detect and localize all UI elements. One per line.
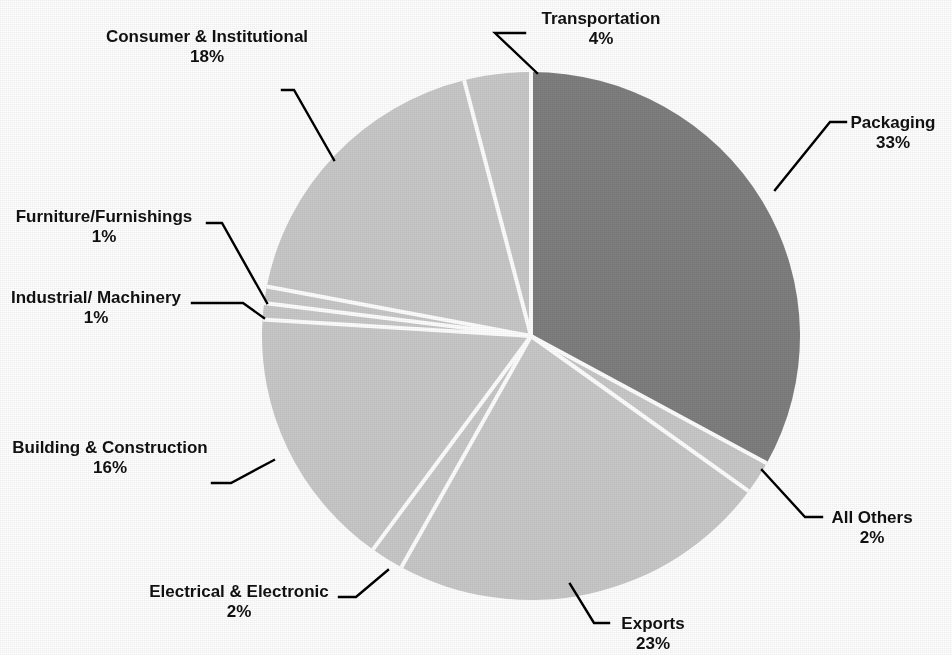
label-industrial-name: Industrial/ Machinery xyxy=(11,288,182,307)
label-exports-name: Exports xyxy=(621,614,684,633)
label-electrical-value: 2% xyxy=(227,602,252,621)
label-packaging-name: Packaging xyxy=(850,113,935,132)
label-industrial-value: 1% xyxy=(84,308,109,327)
label-consumer-value: 18% xyxy=(190,47,224,66)
pie-chart-canvas: Transportation 4% Consumer & Institution… xyxy=(0,0,952,655)
label-transportation-value: 4% xyxy=(589,29,614,48)
label-all-others-name: All Others xyxy=(831,508,912,527)
label-electrical-name: Electrical & Electronic xyxy=(149,582,329,601)
label-transportation-name: Transportation xyxy=(541,9,660,28)
label-building-value: 16% xyxy=(93,458,127,477)
pie-chart-figure: Transportation 4% Consumer & Institution… xyxy=(0,0,952,655)
label-furniture-value: 1% xyxy=(92,227,117,246)
label-furniture-name: Furniture/Furnishings xyxy=(16,207,193,226)
label-consumer-name: Consumer & Institutional xyxy=(106,27,308,46)
label-exports-value: 23% xyxy=(636,634,670,653)
label-building-name: Building & Construction xyxy=(12,438,207,457)
label-all-others-value: 2% xyxy=(860,528,885,547)
label-packaging-value: 33% xyxy=(876,133,910,152)
